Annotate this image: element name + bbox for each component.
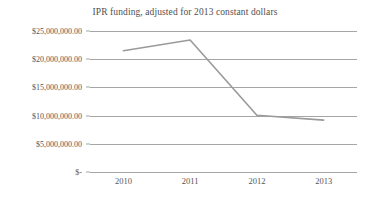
x-axis-tick-label: 2010: [115, 176, 132, 186]
y-axis-tick-label: $10,000,000.00: [0, 111, 86, 120]
x-axis: 2010201120122013: [90, 176, 357, 194]
series-line-group: [90, 0, 357, 205]
y-axis-tick-label: $25,000,000.00: [0, 27, 86, 36]
y-axis: $25,000,000.00$20,000,000.00$15,000,000.…: [0, 0, 86, 205]
y-axis-tick-label: $20,000,000.00: [0, 55, 86, 64]
chart-container: IPR funding, adjusted for 2013 constant …: [0, 0, 370, 205]
y-axis-tick-label: $-: [0, 168, 86, 177]
y-axis-tick-label: $5,000,000.00: [0, 139, 86, 148]
x-axis-tick-label: 2011: [182, 176, 199, 186]
series-line-ipr-funding: [123, 40, 323, 120]
x-axis-tick-label: 2012: [248, 176, 265, 186]
x-axis-tick-label: 2013: [315, 176, 332, 186]
y-axis-tick-label: $15,000,000.00: [0, 83, 86, 92]
